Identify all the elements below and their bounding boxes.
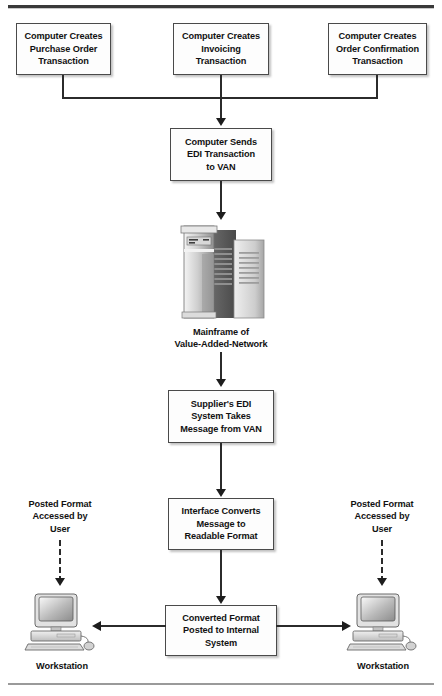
connector-invoicing-down [220,75,222,99]
box-interface-converts-label: Interface Converts Message to Readable F… [182,505,261,542]
box-converted-format: Converted Format Posted to Internal Syst… [165,605,277,656]
top-divider-rule [8,5,434,8]
connector-left-user-dashed [59,540,61,582]
posted-format-left-caption: Posted Format Accessed by User [5,498,115,535]
box-sends-edi: Computer Sends EDI Transaction to VAN [170,128,272,181]
connector-converted-to-left-workstation [100,625,166,627]
box-invoicing: Computer Creates Invoicing Transaction [173,23,269,75]
arrowhead-right-user [377,578,387,586]
arrowhead-to-sends-edi [216,118,226,126]
mainframe-caption: Mainframe of Value-Added-Network [146,326,296,351]
arrowhead-to-mainframe [216,212,226,220]
box-invoicing-label: Computer Creates Invoicing Transaction [182,30,260,67]
arrowhead-to-converted-format [216,596,226,604]
box-interface-converts: Interface Converts Message to Readable F… [168,498,274,550]
arrowhead-to-supplier-edi [216,379,226,387]
box-purchase-order-label: Computer Creates Purchase Order Transact… [24,30,102,67]
connector-supplier-edi-to-interface [220,443,222,495]
arrowhead-to-interface [216,489,226,497]
mainframe-icon [176,222,268,322]
box-order-confirmation-label: Computer Creates Order Confirmation Tran… [336,30,419,67]
connector-right-user-dashed [381,540,383,582]
workstation-computer-icon-left [23,592,99,654]
posted-format-right-caption: Posted Format Accessed by User [327,498,437,535]
connector-order-confirmation-down [376,75,378,99]
box-supplier-edi: Supplier's EDI System Takes Message from… [168,390,274,443]
box-supplier-edi-label: Supplier's EDI System Takes Message from… [180,398,261,435]
box-purchase-order: Computer Creates Purchase Order Transact… [16,23,111,75]
workstation-right-caption: Workstation [333,660,433,672]
box-sends-edi-label: Computer Sends EDI Transaction to VAN [185,136,257,173]
connector-purchase-order-down [62,75,64,99]
workstation-computer-icon-right [345,592,421,654]
workstation-left-caption: Workstation [12,660,112,672]
edi-flowchart-figure: Computer Creates Purchase Order Transact… [0,0,442,696]
bottom-divider-rule [8,683,434,685]
box-converted-format-label: Converted Format Posted to Internal Syst… [182,612,260,649]
connector-interface-to-converted [220,550,222,602]
arrowhead-left-user [55,578,65,586]
connector-converted-to-right-workstation [276,625,342,627]
box-order-confirmation: Computer Creates Order Confirmation Tran… [328,23,427,75]
